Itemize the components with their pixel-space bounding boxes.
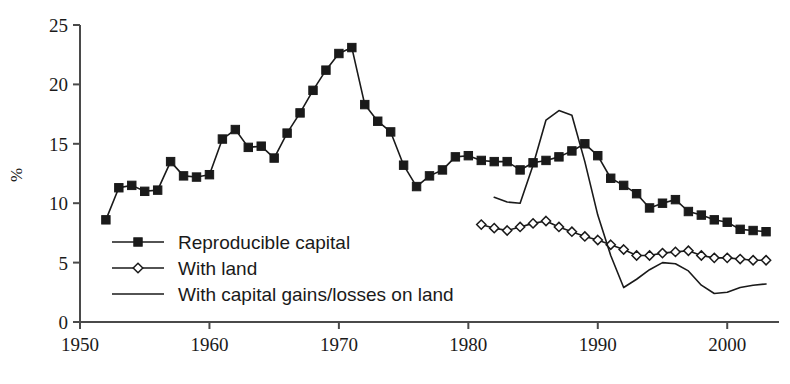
- data-point-marker: [542, 156, 550, 164]
- data-point-marker: [438, 166, 446, 174]
- x-axis-tick-label: 1950: [61, 334, 99, 355]
- data-point-marker: [283, 129, 291, 137]
- x-axis-tick-label: 2000: [708, 334, 746, 355]
- data-point-marker: [632, 189, 640, 197]
- legend-label-0: Reproducible capital: [178, 232, 350, 253]
- x-axis-tick-label: 1970: [320, 334, 358, 355]
- data-point-marker: [257, 142, 265, 150]
- data-point-marker: [619, 245, 628, 254]
- x-axis-tick-label: 1990: [579, 334, 617, 355]
- data-point-marker: [723, 253, 732, 262]
- series-line-2: [494, 111, 766, 294]
- data-point-marker: [115, 184, 123, 192]
- data-point-marker: [671, 247, 680, 256]
- data-point-marker: [736, 254, 745, 263]
- chart-figure: 0510152025195019601970198019902000% Repr…: [0, 0, 790, 384]
- data-point-marker: [231, 125, 239, 133]
- data-point-marker: [166, 157, 174, 165]
- data-point-marker: [619, 181, 627, 189]
- data-point-marker: [710, 253, 719, 262]
- data-point-marker: [567, 227, 576, 236]
- data-point-marker: [580, 232, 589, 241]
- legend-marker-diamond: [133, 263, 143, 273]
- x-axis-tick-label: 1980: [449, 334, 487, 355]
- data-point-marker: [541, 216, 550, 225]
- data-point-marker: [322, 66, 330, 74]
- y-axis-tick-label: 10: [49, 193, 68, 214]
- data-point-marker: [697, 251, 706, 260]
- data-point-marker: [425, 172, 433, 180]
- data-point-marker: [218, 135, 226, 143]
- data-point-marker: [412, 182, 420, 190]
- data-point-marker: [179, 172, 187, 180]
- data-point-marker: [645, 204, 653, 212]
- data-point-marker: [386, 128, 394, 136]
- data-point-marker: [309, 86, 317, 94]
- data-point-marker: [568, 147, 576, 155]
- data-point-marker: [555, 153, 563, 161]
- y-axis-tick-label: 5: [59, 253, 69, 274]
- data-point-marker: [697, 211, 705, 219]
- data-point-marker: [503, 226, 512, 235]
- y-axis-tick-label: 0: [59, 312, 69, 333]
- data-point-marker: [593, 235, 602, 244]
- data-point-marker: [399, 161, 407, 169]
- data-point-marker: [477, 156, 485, 164]
- data-point-marker: [244, 143, 252, 151]
- data-point-marker: [141, 187, 149, 195]
- data-point-marker: [490, 157, 498, 165]
- chart-legend: Reproducible capitalWith landWith capita…: [112, 232, 454, 305]
- data-point-marker: [632, 251, 641, 260]
- data-point-marker: [761, 256, 770, 265]
- data-point-marker: [645, 251, 654, 260]
- data-point-marker: [658, 199, 666, 207]
- chart-series: [102, 43, 771, 293]
- data-point-marker: [516, 222, 525, 231]
- data-point-marker: [205, 170, 213, 178]
- data-point-marker: [374, 117, 382, 125]
- data-point-marker: [528, 219, 537, 228]
- data-point-marker: [348, 43, 356, 51]
- data-point-marker: [671, 195, 679, 203]
- data-point-marker: [684, 246, 693, 255]
- data-point-marker: [554, 222, 563, 231]
- data-point-marker: [464, 151, 472, 159]
- data-point-marker: [153, 186, 161, 194]
- data-point-marker: [102, 216, 110, 224]
- legend-marker-square: [134, 238, 142, 246]
- y-axis-tick-label: 25: [49, 15, 68, 36]
- data-point-marker: [128, 181, 136, 189]
- data-point-marker: [451, 153, 459, 161]
- x-axis-tick-label: 1960: [190, 334, 228, 355]
- data-point-marker: [658, 248, 667, 257]
- data-point-marker: [581, 140, 589, 148]
- data-point-marker: [477, 220, 486, 229]
- data-point-marker: [762, 228, 770, 236]
- data-point-marker: [749, 256, 758, 265]
- data-point-marker: [192, 173, 200, 181]
- legend-label-2: With capital gains/losses on land: [178, 284, 454, 305]
- data-point-marker: [684, 207, 692, 215]
- data-point-marker: [270, 154, 278, 162]
- data-point-marker: [490, 224, 499, 233]
- data-point-marker: [594, 151, 602, 159]
- data-point-marker: [607, 174, 615, 182]
- data-point-marker: [736, 225, 744, 233]
- data-point-marker: [503, 157, 511, 165]
- data-point-marker: [296, 109, 304, 117]
- legend-label-1: With land: [178, 258, 257, 279]
- data-point-marker: [710, 216, 718, 224]
- y-axis-tick-label: 20: [49, 74, 68, 95]
- y-axis-tick-label: 15: [49, 134, 68, 155]
- line-chart: 0510152025195019601970198019902000% Repr…: [0, 0, 790, 384]
- data-point-marker: [361, 100, 369, 108]
- data-point-marker: [335, 49, 343, 57]
- data-point-marker: [516, 166, 524, 174]
- data-point-marker: [723, 218, 731, 226]
- data-point-marker: [749, 226, 757, 234]
- y-axis-label: %: [7, 168, 26, 182]
